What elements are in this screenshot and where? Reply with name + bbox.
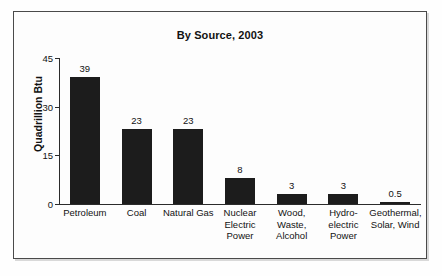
bar — [277, 194, 307, 204]
bar — [380, 202, 410, 204]
x-category-label-line: Petroleum — [59, 207, 111, 219]
x-axis-category-labels: PetroleumCoalNatural GasNuclearElectricP… — [59, 207, 421, 257]
bar-value-label: 23 — [183, 115, 194, 126]
chart-title: By Source, 2003 — [14, 29, 426, 41]
bar-group: 3 — [318, 58, 370, 204]
bar-group: 39 — [59, 58, 111, 204]
x-category-label-line: Power — [214, 230, 266, 242]
bar — [122, 129, 152, 204]
x-category-label-line: Solar, Wind — [369, 219, 421, 231]
x-axis-line — [59, 204, 421, 205]
y-tick-label: 30 — [42, 101, 53, 112]
bar-value-label: 39 — [80, 63, 91, 74]
y-tick-label: 15 — [42, 150, 53, 161]
x-category-label: Geothermal,Solar, Wind — [369, 207, 421, 230]
x-category-label-line: Alcohol — [266, 230, 318, 242]
bar-group: 8 — [214, 58, 266, 204]
bar-value-label: 0.5 — [389, 188, 402, 199]
x-category-label: NuclearElectricPower — [214, 207, 266, 242]
x-category-label-line: Geothermal, — [369, 207, 421, 219]
bar-group: 23 — [162, 58, 214, 204]
x-category-label-line: Power — [318, 230, 370, 242]
x-category-label-line: Coal — [111, 207, 163, 219]
bar-group: 3 — [266, 58, 318, 204]
plot-area: 0153045 3923238330.5 — [59, 58, 421, 204]
x-category-label-line: Natural Gas — [162, 207, 214, 219]
x-category-label-line: Nuclear — [214, 207, 266, 219]
bar-value-label: 8 — [237, 164, 242, 175]
bar-value-label: 3 — [341, 180, 346, 191]
bar-value-label: 3 — [289, 180, 294, 191]
x-category-label-line: Hydro- — [318, 207, 370, 219]
x-category-label: Natural Gas — [162, 207, 214, 219]
x-category-label: Petroleum — [59, 207, 111, 219]
y-tick-label: 45 — [42, 53, 53, 64]
bar — [328, 194, 358, 204]
bar-value-label: 23 — [131, 115, 142, 126]
y-tick-label: 0 — [48, 199, 53, 210]
bars-layer: 3923238330.5 — [59, 58, 421, 204]
bar — [173, 129, 203, 204]
bar — [225, 178, 255, 204]
figure-frame: By Source, 2003 Quadrillion Btu 0153045 … — [13, 11, 427, 259]
y-tick-mark — [55, 204, 60, 205]
x-category-label-line: electric — [318, 219, 370, 231]
x-category-label: Wood,Waste,Alcohol — [266, 207, 318, 242]
x-category-label-line: Waste, — [266, 219, 318, 231]
x-category-label-line: Wood, — [266, 207, 318, 219]
x-category-label: Coal — [111, 207, 163, 219]
x-category-label: Hydro-electricPower — [318, 207, 370, 242]
bar-group: 0.5 — [369, 58, 421, 204]
bar-group: 23 — [111, 58, 163, 204]
x-category-label-line: Electric — [214, 219, 266, 231]
bar — [70, 77, 100, 204]
figure-page: By Source, 2003 Quadrillion Btu 0153045 … — [0, 0, 442, 276]
